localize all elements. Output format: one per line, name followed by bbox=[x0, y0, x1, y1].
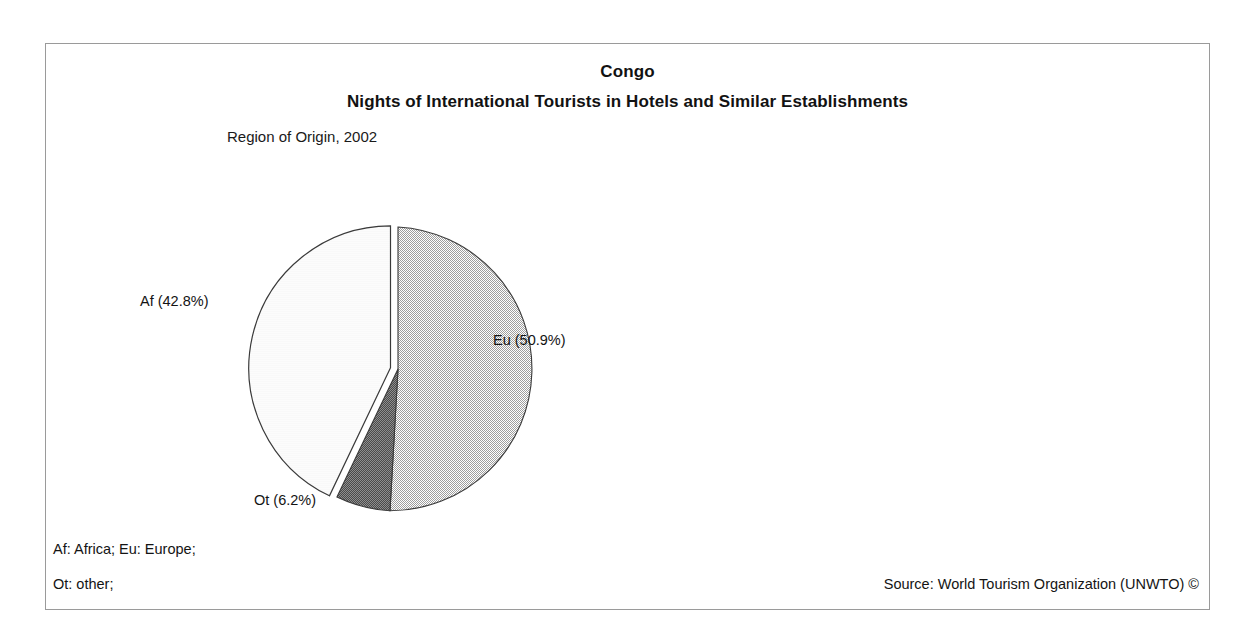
pie-label-eu: Eu (50.9%) bbox=[493, 332, 566, 348]
pie-slice-eu[interactable] bbox=[390, 227, 532, 511]
pie-label-ot: Ot (6.2%) bbox=[254, 492, 316, 508]
legend-abbreviations-line2: Ot: other; bbox=[53, 576, 113, 592]
source-attribution: Source: World Tourism Organization (UNWT… bbox=[884, 576, 1199, 592]
pie-chart-area: Af (42.8%) Eu (50.9%) Ot (6.2%) bbox=[46, 44, 1209, 609]
chart-frame: Congo Nights of International Tourists i… bbox=[45, 43, 1210, 610]
screenshot-canvas: Congo Nights of International Tourists i… bbox=[0, 0, 1256, 643]
legend-abbreviations-line1: Af: Africa; Eu: Europe; bbox=[53, 541, 196, 557]
pie-label-af: Af (42.8%) bbox=[140, 293, 209, 309]
